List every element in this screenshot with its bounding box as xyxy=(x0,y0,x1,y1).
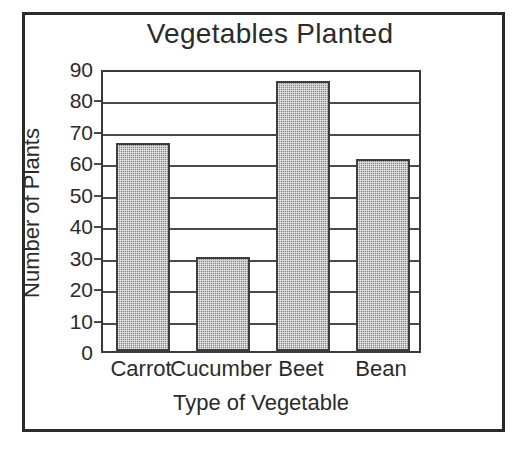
bar xyxy=(356,159,410,351)
bar xyxy=(196,257,250,351)
y-axis-tick-label: 60 xyxy=(47,153,93,174)
y-axis-tick-label: 20 xyxy=(47,279,93,300)
gridline xyxy=(103,134,419,136)
y-axis-tick-mark xyxy=(94,226,101,228)
y-axis-tick-mark xyxy=(94,321,101,323)
y-axis-tick-mark xyxy=(94,163,101,165)
y-axis-tick-label: 50 xyxy=(47,185,93,206)
y-axis-title: Number of Plants xyxy=(19,113,45,313)
y-axis-tick-mark xyxy=(94,195,101,197)
y-axis-tick-label: 90 xyxy=(47,59,93,80)
chart-title: Vegetables Planted xyxy=(60,18,480,50)
bar xyxy=(276,81,330,351)
y-axis-tick-label: 10 xyxy=(47,311,93,332)
x-axis-category-label: Bean xyxy=(311,356,451,382)
y-axis-tick-label: 70 xyxy=(47,122,93,143)
gridline xyxy=(103,102,419,104)
y-axis-tick-label: 30 xyxy=(47,248,93,269)
x-axis-title: Type of Vegetable xyxy=(100,390,422,416)
bar-chart-figure: Vegetables Planted Number of Plants Type… xyxy=(0,0,524,451)
y-axis-tick-label: 80 xyxy=(47,90,93,111)
y-axis-tick-mark xyxy=(94,258,101,260)
plot-area xyxy=(101,70,421,353)
bar xyxy=(116,143,170,351)
y-axis-tick-mark xyxy=(94,100,101,102)
y-axis-tick-mark xyxy=(94,132,101,134)
y-axis-tick-mark xyxy=(94,289,101,291)
y-axis-tick-label: 40 xyxy=(47,216,93,237)
